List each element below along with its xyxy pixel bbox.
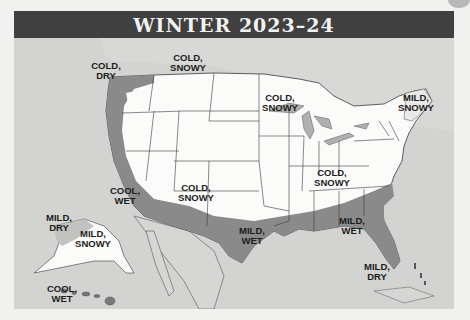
label-line2: WET — [239, 236, 265, 246]
region-label-ohio-valley: COLD, SNOWY — [314, 168, 350, 188]
region-label-northern-rockies: COLD, SNOWY — [170, 53, 206, 73]
map-frame: WINTER 2023–24 COLD, DRY COLD, SNOWY COL… — [14, 11, 454, 309]
region-label-southeast: MILD, WET — [339, 216, 365, 236]
region-label-california: COOL, WET — [110, 186, 140, 206]
region-label-texas: MILD, WET — [239, 226, 265, 246]
region-label-upper-midwest: COLD, SNOWY — [262, 93, 298, 113]
label-line2: WET — [47, 294, 77, 304]
region-label-alaska-west: MILD, DRY — [46, 213, 72, 233]
label-line2: SNOWY — [262, 103, 298, 113]
label-line2: DRY — [364, 272, 390, 282]
label-line2: SNOWY — [314, 178, 350, 188]
region-label-northeast: MILD, SNOWY — [398, 93, 434, 113]
label-line2: WET — [339, 226, 365, 236]
label-line2: WET — [110, 196, 140, 206]
region-label-hawaii: COOL, WET — [47, 284, 77, 304]
region-label-southwest: COLD, SNOWY — [178, 183, 214, 203]
corner-decoration — [448, 0, 470, 8]
label-line2: DRY — [91, 71, 121, 81]
region-label-alaska-east: MILD, SNOWY — [75, 229, 111, 249]
label-line2: SNOWY — [178, 193, 214, 203]
label-line2: SNOWY — [170, 63, 206, 73]
map-title: WINTER 2023–24 — [133, 14, 334, 36]
region-label-pacific-northwest: COLD, DRY — [91, 61, 121, 81]
label-line2: DRY — [46, 223, 72, 233]
label-line2: SNOWY — [398, 103, 434, 113]
title-bar: WINTER 2023–24 — [14, 11, 454, 38]
label-line2: SNOWY — [75, 239, 111, 249]
region-label-florida: MILD, DRY — [364, 262, 390, 282]
